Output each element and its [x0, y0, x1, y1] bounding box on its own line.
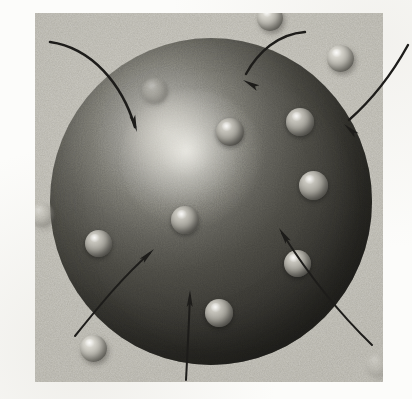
arrow-bottom-left [75, 247, 156, 336]
arrow-bottom-left-shaft [75, 253, 150, 336]
arrow-top-right-head [342, 122, 359, 138]
arrow-top-left-shaft [50, 42, 135, 127]
arrow-bottom-right [276, 226, 372, 345]
arrow-top-middle-head [242, 77, 260, 90]
arrow-bottom-right-shaft [282, 233, 372, 345]
arrow-top-middle-shaft [246, 32, 305, 74]
arrow-bottom-right-head [276, 226, 290, 244]
arrow-top-middle [242, 32, 305, 91]
arrow-layer [0, 0, 412, 399]
figure-root [0, 0, 412, 399]
arrow-bottom-middle-shaft [186, 296, 190, 380]
arrow-top-right [342, 45, 408, 138]
arrow-top-left [50, 42, 140, 133]
arrow-bottom-middle [186, 290, 193, 380]
arrow-top-left-head [129, 115, 139, 133]
arrow-top-right-shaft [349, 45, 408, 120]
